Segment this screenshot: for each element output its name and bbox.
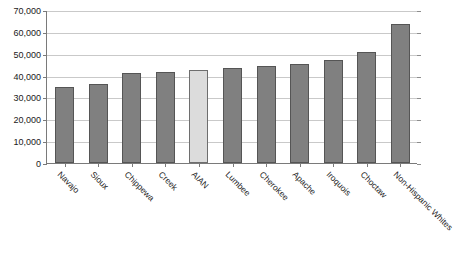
bar-sioux[interactable] xyxy=(89,84,108,163)
y-axis-tick xyxy=(43,142,47,143)
bar-slot xyxy=(149,11,183,163)
x-label-slot: Chippewa xyxy=(114,168,148,254)
x-label-slot: Creek xyxy=(148,168,182,254)
y-axis-tick xyxy=(43,11,47,12)
x-axis-label-navajo: Navajo xyxy=(56,170,81,195)
plot-area: 010,00020,00030,00040,00050,00060,00070,… xyxy=(46,11,417,164)
bar-slot xyxy=(350,11,384,163)
x-label-slot: Navajo xyxy=(47,168,81,254)
x-axis-tick xyxy=(165,163,166,167)
x-axis-tick xyxy=(132,163,133,167)
bar-slot xyxy=(48,11,82,163)
bar-non-hispanic-whites[interactable] xyxy=(391,24,410,163)
y-axis-tick-right xyxy=(417,120,421,121)
bar-slot xyxy=(249,11,283,163)
x-axis-label-lumbee: Lumbee xyxy=(224,170,252,198)
bar-chippewa[interactable] xyxy=(122,73,141,163)
bar-slot xyxy=(115,11,149,163)
x-axis-tick xyxy=(367,163,368,167)
x-axis-label-sioux: Sioux xyxy=(89,170,110,191)
y-axis-tick xyxy=(43,120,47,121)
x-label-slot: Lumbee xyxy=(215,168,249,254)
x-axis-tick xyxy=(65,163,66,167)
y-axis-tick xyxy=(43,98,47,99)
x-axis-tick xyxy=(300,163,301,167)
x-axis-label-non-hispanic-whites: Non-Hispanic Whites xyxy=(392,170,454,232)
y-axis-tick-label: 40,000 xyxy=(13,72,41,81)
bar-lumbee[interactable] xyxy=(223,68,242,163)
y-axis-tick-label: 20,000 xyxy=(13,116,41,125)
y-axis-tick-label: 30,000 xyxy=(13,94,41,103)
bar-creek[interactable] xyxy=(156,72,175,163)
y-axis-tick-right xyxy=(417,11,421,12)
x-axis-label-iroquois: Iroquois xyxy=(325,170,352,197)
bar-cherokee[interactable] xyxy=(257,66,276,163)
x-axis-tick xyxy=(333,163,334,167)
bars-group xyxy=(48,11,417,163)
x-label-slot: Cherokee xyxy=(249,168,283,254)
y-axis-tick xyxy=(43,55,47,56)
y-axis-tick-right xyxy=(417,142,421,143)
y-axis-tick-label: 0 xyxy=(36,160,41,169)
y-axis-tick-right xyxy=(417,33,421,34)
bar-slot xyxy=(283,11,317,163)
y-axis-tick-right xyxy=(417,55,421,56)
y-axis-tick-label: 60,000 xyxy=(13,28,41,37)
x-label-slot: Apache xyxy=(282,168,316,254)
x-axis-label-creek: Creek xyxy=(157,170,179,192)
x-axis-tick xyxy=(400,163,401,167)
x-label-slot: Choctaw xyxy=(350,168,384,254)
y-axis-tick-label: 50,000 xyxy=(13,50,41,59)
y-axis-tick-right xyxy=(417,164,421,165)
x-axis-tick xyxy=(233,163,234,167)
bar-iroquois[interactable] xyxy=(324,60,343,163)
y-axis-tick xyxy=(43,33,47,34)
x-axis-tick xyxy=(199,163,200,167)
x-axis-tick xyxy=(98,163,99,167)
x-axis-tick xyxy=(266,163,267,167)
y-axis-tick xyxy=(43,164,47,165)
y-axis-tick xyxy=(43,77,47,78)
bar-aian[interactable] xyxy=(189,70,208,163)
bar-slot xyxy=(182,11,216,163)
bar-slot xyxy=(82,11,116,163)
x-label-slot: Non-Hispanic Whites xyxy=(383,168,417,254)
y-axis-tick-right xyxy=(417,98,421,99)
bar-apache[interactable] xyxy=(290,64,309,163)
bar-slot xyxy=(383,11,417,163)
x-label-slot: Sioux xyxy=(81,168,115,254)
bar-navajo[interactable] xyxy=(55,87,74,163)
y-axis-tick-label: 70,000 xyxy=(13,7,41,16)
x-label-slot: Iroquois xyxy=(316,168,350,254)
bar-slot xyxy=(216,11,250,163)
bar-choctaw[interactable] xyxy=(357,52,376,163)
y-axis-tick-right xyxy=(417,77,421,78)
x-axis-labels: NavajoSiouxChippewaCreekAIANLumbeeCherok… xyxy=(47,168,417,254)
x-axis-label-apache: Apache xyxy=(291,170,317,196)
x-axis-label-aian: AIAN xyxy=(190,170,210,190)
bar-slot xyxy=(316,11,350,163)
x-label-slot: AIAN xyxy=(182,168,216,254)
y-axis-tick-label: 10,000 xyxy=(13,138,41,147)
